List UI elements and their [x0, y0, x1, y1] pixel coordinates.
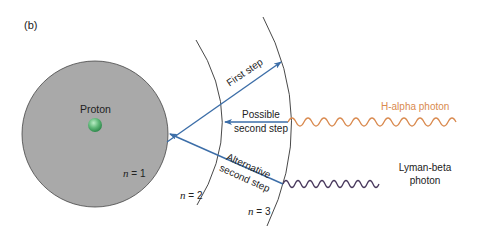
- atom-n1-circle: [22, 61, 168, 207]
- possible-second-step-label-line1: Possible: [231, 110, 291, 120]
- lyman-beta-label-line1: Lyman-beta: [394, 163, 456, 173]
- possible-second-step-label-line2: second step: [229, 124, 293, 134]
- proton-ball: [88, 118, 102, 132]
- h-alpha-photon-wave: [288, 118, 456, 126]
- orbit-n2-arc: [196, 40, 222, 205]
- lyman-beta-photon-wave: [283, 181, 379, 188]
- panel-label: (b): [24, 20, 37, 31]
- level-n2-label: n = 2: [180, 190, 202, 201]
- h-alpha-photon-label: H-alpha photon: [381, 102, 449, 112]
- proton-label: Proton: [80, 104, 111, 115]
- level-n3-label: n = 3: [248, 206, 270, 217]
- lyman-beta-label-line2: photon: [394, 176, 456, 186]
- level-n1-label: n = 1: [123, 168, 145, 179]
